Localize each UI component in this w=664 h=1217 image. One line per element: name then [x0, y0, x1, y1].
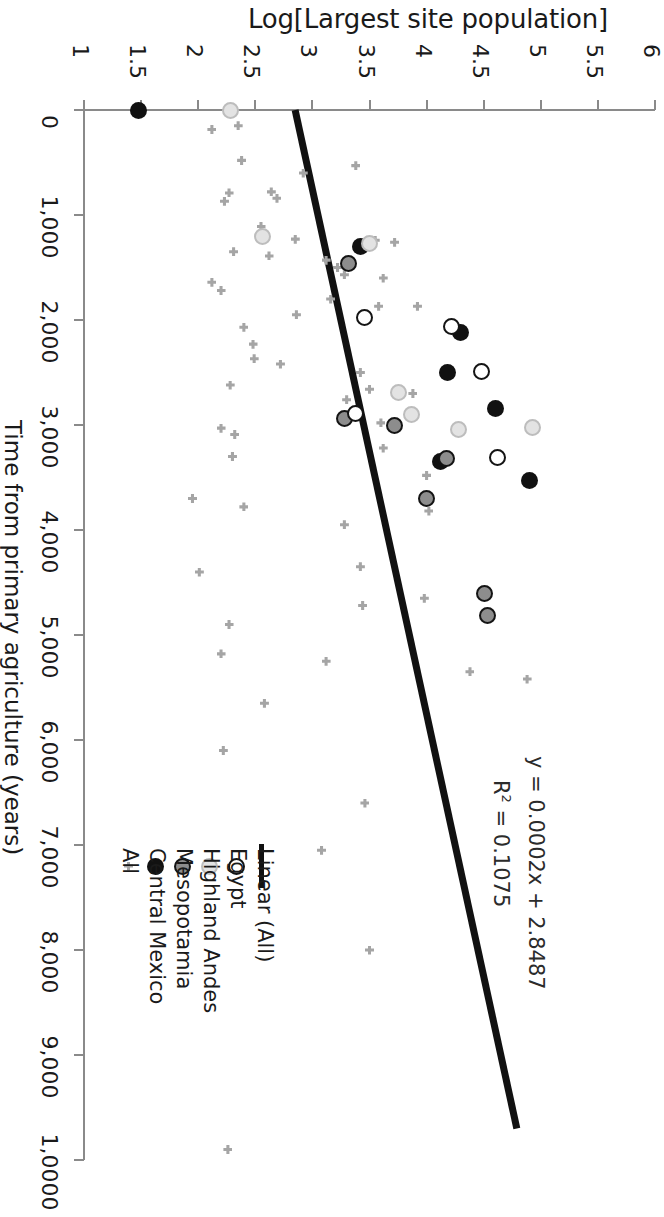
point-highland-andes — [390, 384, 407, 401]
point-central-mexico — [439, 364, 456, 381]
point-mesopotamia — [479, 607, 496, 624]
r-squared-exponent: 2 — [499, 795, 514, 803]
legend-item-label: Linear (All) — [253, 848, 277, 962]
r-squared-line: R2 = 0.1075 — [489, 780, 514, 907]
point-highland-andes — [361, 235, 378, 252]
point-central-mexico — [130, 102, 147, 119]
point-mesopotamia — [476, 585, 493, 602]
point-mesopotamia — [386, 417, 403, 434]
legend-item-label: All — [118, 848, 142, 874]
point-egypt — [489, 449, 506, 466]
point-central-mexico — [487, 400, 504, 417]
point-highland-andes — [450, 421, 467, 438]
equation-line: y = 0.0002x + 2.8487 — [524, 756, 548, 990]
point-mesopotamia — [438, 450, 455, 467]
point-egypt — [473, 363, 490, 380]
r-squared-value: = 0.1075 — [489, 803, 513, 907]
legend-item-label: Central Mexico — [145, 848, 169, 1004]
legend-item-label: Highland Andes — [199, 848, 223, 1013]
point-highland-andes — [222, 102, 239, 119]
point-central-mexico — [521, 472, 538, 489]
legend-item-label: Egypt — [226, 848, 250, 909]
point-egypt — [443, 318, 460, 335]
point-highland-andes — [524, 419, 541, 436]
r-squared-prefix: R — [489, 780, 513, 795]
point-mesopotamia — [418, 490, 435, 507]
point-highland-andes — [254, 228, 271, 245]
legend-item-label: Mesopotamia — [172, 848, 196, 989]
